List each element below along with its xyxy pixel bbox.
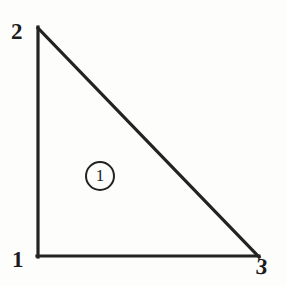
element-number-badge: 1 bbox=[85, 161, 115, 191]
element-outline-svg bbox=[0, 0, 286, 285]
triangular-element-diagram: 2 1 3 1 bbox=[0, 0, 286, 285]
node-label-2: 2 bbox=[11, 20, 22, 43]
node-label-1: 1 bbox=[12, 248, 23, 271]
element-number-label: 1 bbox=[96, 167, 105, 184]
